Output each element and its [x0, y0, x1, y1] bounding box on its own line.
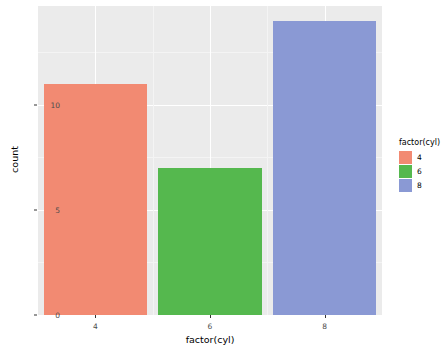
bar-4 [44, 84, 147, 315]
legend-item-6: 6 [399, 164, 446, 178]
legend: factor(cyl) 468 [399, 138, 446, 192]
x-axis-title: factor(cyl) [38, 334, 382, 345]
x-tick-mark [210, 315, 211, 318]
bar-6 [158, 168, 261, 315]
x-tick-mark [325, 315, 326, 318]
x-tick-label: 8 [322, 322, 327, 331]
legend-swatch-8 [399, 179, 412, 192]
gridline-minor-vertical [267, 6, 268, 315]
legend-label-6: 6 [417, 167, 422, 176]
y-tick-label: 0 [55, 311, 60, 320]
y-tick-label: 10 [50, 100, 60, 109]
x-tick-label: 4 [93, 322, 98, 331]
legend-label-8: 8 [417, 181, 422, 190]
legend-item-4: 4 [399, 150, 446, 164]
legend-swatch-4 [399, 151, 412, 164]
y-tick-mark [34, 104, 37, 105]
bar-chart: 0510 468 factor(cyl) count factor(cyl) 4… [0, 0, 446, 353]
legend-key-box [399, 179, 412, 192]
legend-key-box [399, 165, 412, 178]
gridline-minor-vertical [153, 6, 154, 315]
y-tick-label: 5 [55, 205, 60, 214]
y-tick-mark [34, 209, 37, 210]
x-tick-mark [95, 315, 96, 318]
x-tick-label: 6 [208, 322, 213, 331]
plot-panel [38, 6, 382, 315]
legend-title: factor(cyl) [399, 138, 446, 147]
legend-items: 468 [399, 150, 446, 192]
y-axis-title: count [9, 110, 20, 210]
y-tick-mark [34, 315, 37, 316]
legend-label-4: 4 [417, 153, 422, 162]
legend-key-box [399, 151, 412, 164]
bar-8 [273, 21, 376, 315]
legend-swatch-6 [399, 165, 412, 178]
legend-item-8: 8 [399, 178, 446, 192]
